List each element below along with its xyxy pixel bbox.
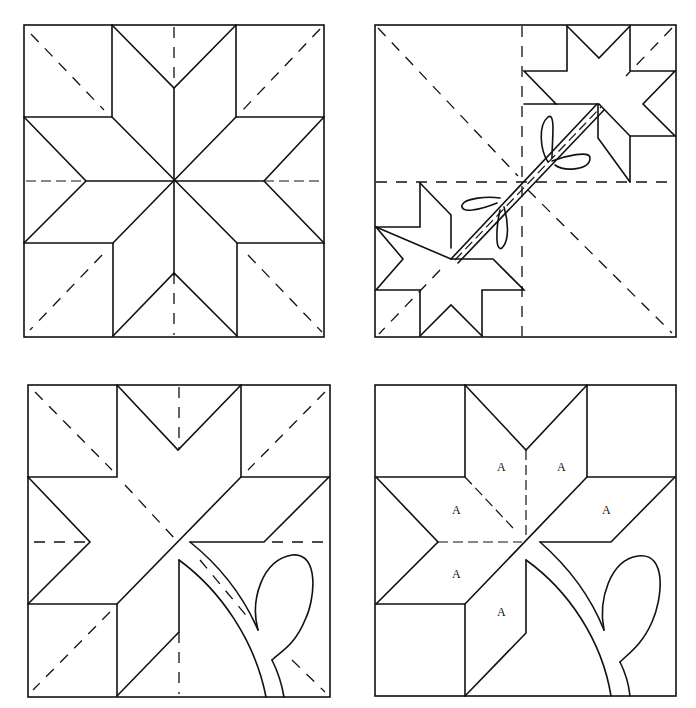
panel-partial-star-with-stem bbox=[28, 385, 330, 697]
seam-dash-diagonal bbox=[465, 477, 513, 528]
quilt-diagram: A A A A A A bbox=[0, 0, 696, 708]
piece-label-a: A bbox=[452, 567, 461, 581]
star-ur-diag bbox=[599, 104, 630, 136]
star-left-notch bbox=[24, 117, 86, 243]
piece-label-a: A bbox=[602, 503, 611, 517]
leaf-loop-2 bbox=[552, 154, 590, 169]
stem-line-lower bbox=[458, 110, 604, 263]
piece-label-a: A bbox=[497, 605, 506, 619]
star-ll-left-arm bbox=[376, 183, 420, 336]
corner-square-tl bbox=[376, 385, 465, 477]
leaf-loop-3 bbox=[462, 197, 500, 210]
guide-diag-tl bbox=[35, 392, 112, 470]
star-ll-diag bbox=[376, 227, 451, 259]
corner-square-bl bbox=[376, 604, 465, 696]
leaf-loop bbox=[602, 556, 660, 662]
guide-diag-bl bbox=[33, 612, 110, 690]
star-left-notch bbox=[376, 477, 438, 604]
star-ur-left-arm bbox=[524, 26, 567, 104]
panel-eight-point-star bbox=[24, 25, 324, 337]
star-bottom-arm bbox=[117, 560, 179, 696]
guide-diag-br bbox=[292, 660, 325, 692]
guide-diag-upper-left bbox=[378, 28, 518, 176]
star-bottom-notch bbox=[113, 273, 237, 336]
star-ll-right-arm bbox=[451, 259, 524, 336]
stem-curve-inner bbox=[526, 560, 611, 696]
star-bottom-arm bbox=[465, 560, 526, 696]
leaf-loop-4 bbox=[497, 207, 508, 248]
corner-square-tr bbox=[587, 385, 675, 477]
star-ur-right-arm bbox=[630, 26, 675, 182]
stem-curve-outer-upper bbox=[540, 542, 604, 630]
star-top-notch bbox=[465, 385, 587, 450]
guide-diag-bl bbox=[30, 255, 102, 330]
star-right-arm bbox=[190, 477, 329, 542]
piece-label-a: A bbox=[497, 460, 506, 474]
star-ll-top-arm bbox=[420, 183, 451, 248]
panel-two-stars-with-stem bbox=[375, 25, 676, 337]
stem-curve-outer-lower bbox=[272, 660, 284, 697]
piece-label-a: A bbox=[452, 503, 461, 517]
stem-curve-inner bbox=[179, 560, 266, 697]
leaf-loop-1 bbox=[541, 116, 553, 162]
panel-labeled-pieces: A A A A A A bbox=[375, 385, 676, 696]
star-ll-bottom-notch bbox=[420, 305, 482, 336]
guide-diag-tl bbox=[31, 34, 104, 110]
stem-center-dash bbox=[455, 107, 601, 260]
guide-diag-stem bbox=[200, 560, 250, 620]
piece-label-a: A bbox=[557, 460, 566, 474]
corner-square-tl bbox=[24, 25, 112, 117]
guide-diag-center bbox=[125, 485, 176, 540]
star-left-notch bbox=[28, 477, 90, 604]
star-right-notch bbox=[264, 117, 324, 243]
stem-curve-outer-upper bbox=[190, 542, 258, 630]
guide-diag-tr bbox=[240, 29, 320, 113]
guide-diag-tr bbox=[248, 392, 325, 470]
star-ur-top-notch bbox=[567, 26, 630, 58]
guide-diag-lower-right bbox=[528, 190, 672, 333]
leaf-loop bbox=[256, 555, 313, 660]
stem-curve-outer-lower bbox=[620, 662, 630, 696]
guide-diag-br bbox=[248, 255, 322, 332]
star-ur-bottom-arm bbox=[598, 104, 630, 182]
guide-diag-upper-right bbox=[626, 28, 672, 76]
